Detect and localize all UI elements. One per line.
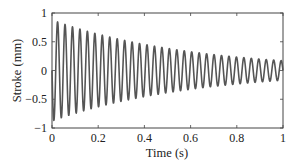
x-tick-label: 0.4 xyxy=(137,131,152,145)
y-tick-label: 1 xyxy=(41,6,47,20)
x-tick-label: 0.8 xyxy=(229,131,244,145)
x-tick-label: 0.2 xyxy=(91,131,106,145)
x-tick-label: 0 xyxy=(49,131,55,145)
x-tick-label: 1 xyxy=(280,131,286,145)
stroke-time-chart: 00.20.40.60.81 −1−0.500.51 Time (s) Stro… xyxy=(0,0,297,162)
x-axis-label: Time (s) xyxy=(146,146,188,160)
y-axis-label: Stroke (mm) xyxy=(10,39,24,103)
x-tick-label: 0.6 xyxy=(183,131,198,145)
y-tick-label: 0.5 xyxy=(32,35,47,49)
y-tick-label: −0.5 xyxy=(25,92,47,106)
y-tick-label: 0 xyxy=(41,64,47,78)
stroke-series-line xyxy=(52,22,283,121)
y-tick-label: −1 xyxy=(34,121,47,135)
